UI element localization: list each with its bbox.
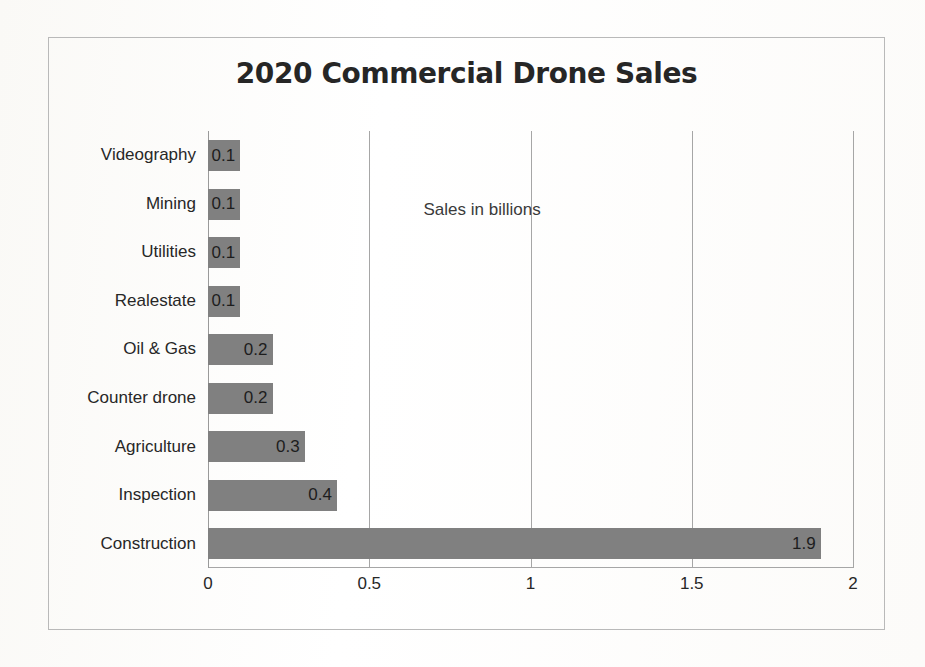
bar: 0.4 [208, 480, 337, 511]
bar: 1.9 [208, 528, 821, 559]
bar-row: Construction1.9 [208, 519, 853, 568]
bar: 0.2 [208, 383, 273, 414]
bar-value-label: 0.1 [212, 243, 236, 263]
bar-row: Videography0.1 [208, 131, 853, 180]
x-tick-label: 0.5 [357, 574, 381, 594]
bar-value-label: 0.4 [308, 485, 332, 505]
category-label: Agriculture [115, 437, 196, 457]
category-label: Realestate [115, 291, 196, 311]
category-label: Videography [101, 145, 196, 165]
x-tick-label: 1 [526, 574, 535, 594]
category-label: Utilities [141, 242, 196, 262]
bar-value-label: 0.1 [212, 146, 236, 166]
bar: 0.1 [208, 140, 240, 171]
chart-annotation: Sales in billions [424, 200, 541, 220]
bar-value-label: 1.9 [792, 534, 816, 554]
x-tick-label: 2 [848, 574, 857, 594]
bar-value-label: 0.1 [212, 194, 236, 214]
bar: 0.1 [208, 286, 240, 317]
category-label: Oil & Gas [123, 339, 196, 359]
bar-value-label: 0.1 [212, 291, 236, 311]
bar-value-label: 0.3 [276, 437, 300, 457]
category-label: Inspection [119, 485, 197, 505]
bar-row: Agriculture0.3 [208, 422, 853, 471]
x-tick-label: 0 [203, 574, 212, 594]
bar: 0.3 [208, 431, 305, 462]
x-tick-label: 1.5 [680, 574, 704, 594]
bar-rows: Videography0.1Mining0.1Utilities0.1Reale… [208, 131, 853, 568]
chart-frame: 2020 Commercial Drone Sales Videography0… [48, 37, 885, 630]
gridline-2 [853, 131, 854, 568]
bar-value-label: 0.2 [244, 388, 268, 408]
bar-row: Realestate0.1 [208, 277, 853, 326]
bar-value-label: 0.2 [244, 340, 268, 360]
category-label: Counter drone [87, 388, 196, 408]
bar: 0.1 [208, 237, 240, 268]
category-label: Mining [146, 194, 196, 214]
bar: 0.2 [208, 334, 273, 365]
bar-row: Counter drone0.2 [208, 374, 853, 423]
category-label: Construction [101, 534, 196, 554]
chart-title: 2020 Commercial Drone Sales [49, 57, 884, 90]
bar-row: Utilities0.1 [208, 228, 853, 277]
bar: 0.1 [208, 189, 240, 220]
plot-area: Videography0.1Mining0.1Utilities0.1Reale… [208, 131, 853, 568]
bar-row: Oil & Gas0.2 [208, 325, 853, 374]
bar-row: Inspection0.4 [208, 471, 853, 520]
